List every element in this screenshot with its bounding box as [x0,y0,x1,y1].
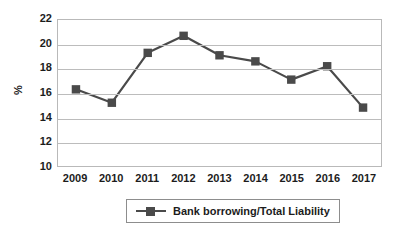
y-axis-tick-label: 20 [26,38,52,49]
data-point-marker [72,85,80,93]
x-axis-tick-labels: 200920102011201220132014201520162017 [57,172,382,188]
series-line [76,36,363,108]
y-axis-tick-label: 16 [26,87,52,98]
plot-area [57,19,382,167]
x-axis-tick-label: 2015 [272,172,312,185]
y-axis-tick-label: 18 [26,62,52,73]
x-axis-tick-label: 2013 [200,172,240,185]
y-axis-tick-labels: 10121416182022 [26,19,52,167]
y-axis-tick-label: 12 [26,136,52,147]
chart-legend: Bank borrowing/Total Liability [126,199,340,223]
x-axis-tick-label: 2016 [308,172,348,185]
data-point-marker [179,32,187,40]
gridline [58,94,381,95]
y-axis-tick-label: 10 [26,161,52,172]
y-axis-tick-label: 22 [26,13,52,24]
gridline [58,45,381,46]
legend-label: Bank borrowing/Total Liability [173,205,330,217]
x-axis-tick-label: 2011 [127,172,167,185]
line-chart: % 10121416182022 20092010201120122013201… [0,0,399,238]
x-axis-tick-label: 2017 [344,172,384,185]
gridline [58,143,381,144]
data-point-marker [215,51,223,59]
gridline [58,119,381,120]
data-point-marker [144,49,152,57]
x-axis-tick-label: 2010 [91,172,131,185]
x-axis-tick-label: 2012 [163,172,203,185]
x-axis-tick-label: 2014 [236,172,276,185]
series-bank-borrowing-total-liability [58,20,381,166]
data-point-marker [108,99,116,107]
data-point-marker [251,57,259,65]
gridline [58,69,381,70]
x-axis-tick-label: 2009 [55,172,95,185]
y-axis-tick-label: 14 [26,112,52,123]
legend-marker-icon [136,205,166,217]
data-point-marker [359,103,367,111]
data-point-marker [287,75,295,83]
y-axis-title: % [12,80,24,100]
